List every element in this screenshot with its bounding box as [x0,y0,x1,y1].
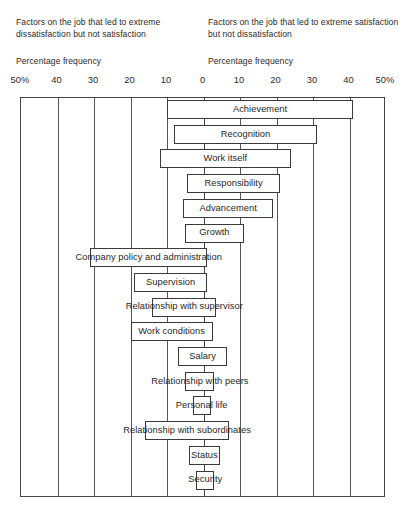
chart-bar: Security [196,471,214,490]
left-caption: Factors on the job that led to extreme d… [16,16,206,40]
axis-tick-label: 40 [343,74,353,85]
chart-bar: Work conditions [131,322,213,341]
chart-bar: Relationship with peers [185,372,214,391]
chart-bar-label: Relationship with peers [151,377,248,386]
chart-bar: Relationship with subordinates [145,421,229,440]
chart-bar: Salary [178,347,227,366]
chart-bar-label: Security [188,475,222,484]
right-caption: Factors on the job that led to extreme s… [208,16,404,40]
axis-tick-label: 10 [161,74,171,85]
chart-bar-label: Supervision [146,278,195,287]
chart-bar: Responsibility [187,174,280,193]
chart-bar: Relationship with supervisor [152,298,216,317]
chart-bar-label: Growth [199,228,229,237]
chart-bar-label: Recognition [221,130,271,139]
axis-tick-label: 50% [11,74,30,85]
gridline [94,98,95,496]
chart-bar-label: Responsibility [205,179,263,188]
gridline [131,98,132,496]
chart-bar-label: Work conditions [138,327,205,336]
axis-tick-label: 20 [270,74,280,85]
chart-bar: Work itself [160,149,291,168]
chart-bar-label: Work itself [203,154,247,163]
gridline [350,98,351,496]
axis-tick-label: 10 [234,74,244,85]
chart-bar: Company policy and administration [90,248,207,267]
right-axis-title: Percentage frequency [208,55,293,67]
axis-tick-label: 30 [307,74,317,85]
gridline [313,98,314,496]
chart-bar-label: Status [191,451,218,460]
chart-plot-area: AchievementRecognitionWork itselfRespons… [20,97,385,497]
axis-tick-label: 30 [88,74,98,85]
chart-bar-label: Company policy and administration [76,253,222,262]
chart-bar: Personal life [193,396,211,415]
chart-bar-label: Salary [189,352,216,361]
chart-bar: Supervision [134,273,207,292]
axis-tick-label: 40 [51,74,61,85]
chart-bar-label: Personal life [176,401,228,410]
chart-bar-label: Relationship with supervisor [126,302,243,311]
chart-bar: Status [189,446,220,465]
chart-bar: Recognition [174,125,316,144]
chart-bar-label: Advancement [199,204,256,213]
axis-tick-label: 0 [200,74,205,85]
chart-bar: Advancement [183,199,272,218]
gridline [58,98,59,496]
left-axis-title: Percentage frequency [16,55,101,67]
axis-tick-label: 20 [124,74,134,85]
axis-tick-labels: 50%4030201001020304050% [0,74,408,90]
chart-bar-label: Achievement [233,105,287,114]
chart-bar: Achievement [167,100,353,119]
chart-bar-label: Relationship with subordinates [123,426,251,435]
axis-tick-label: 50% [376,74,395,85]
chart-bar: Growth [185,224,243,243]
